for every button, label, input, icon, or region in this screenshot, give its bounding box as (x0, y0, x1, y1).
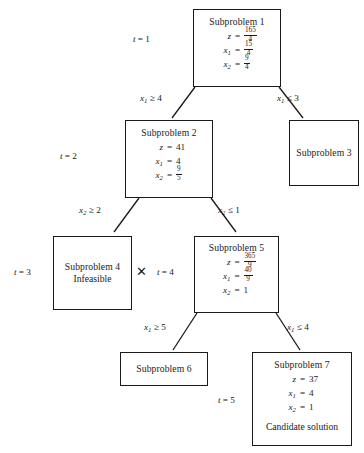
branch-label-x1-le-3: x1 ≤ 3 (277, 93, 299, 104)
equation-x1-numerator: 40 (244, 267, 253, 275)
branch-label-x2-le-1-rel: ≤ (228, 205, 233, 215)
node-subproblem-5-title: Subproblem 5 (195, 242, 278, 254)
branch-label-x1-ge-4-value: 4 (157, 93, 162, 103)
iteration-label-t-5: t = 5 (218, 395, 235, 405)
node-subproblem-6-title: Subproblem 6 (136, 363, 191, 375)
equation-x1-relation: = (163, 156, 176, 166)
equation-x1: x1 = 154 (214, 43, 260, 57)
equation-z: z = 37 (279, 372, 325, 386)
iteration-label-t-5-value: 5 (230, 395, 235, 405)
equation-x2-relation: = (231, 59, 244, 69)
branch-label-x2-le-1: x2 ≤ 1 (218, 205, 240, 216)
node-subproblem-5-equations: z = 3659 x1 = 409 x2 = 1 (214, 255, 260, 297)
branch-and-bound-diagram: Subproblem 1 z = 1654 x1 = 154 x2 = 94 t… (0, 0, 364, 453)
iteration-label-t-5-var: t (218, 395, 221, 405)
equation-z-numerator: 165 (244, 27, 257, 35)
equation-x2-numerator: 9 (176, 166, 182, 174)
equation-z-relation: = (296, 374, 309, 384)
equation-x2: x2 = 1 (214, 283, 260, 297)
edge-sub2-to-sub4 (114, 198, 139, 232)
branch-label-x1-le-4-rel: ≤ (297, 322, 302, 332)
equation-z-relation: = (231, 257, 244, 267)
iteration-label-t-2-rel: = (65, 151, 70, 161)
iteration-label-t-5-rel: = (223, 395, 228, 405)
equation-z-lhs: z (214, 257, 231, 267)
iteration-label-t-2: t = 2 (60, 151, 77, 161)
equation-x1-lhs: x1 (214, 45, 231, 56)
node-subproblem-1-equations: z = 1654 x1 = 154 x2 = 94 (214, 29, 260, 71)
equation-x2-relation: = (163, 170, 176, 180)
equation-x2: x2 = 94 (214, 57, 260, 71)
equation-x2-denominator: 5 (176, 174, 182, 183)
equation-x2: x2 = 95 (146, 168, 192, 182)
equation-z-relation: = (163, 142, 176, 152)
equation-x2-value: 1 (244, 285, 260, 295)
iteration-label-t-1-rel: = (138, 34, 143, 44)
branch-label-x2-ge-2-rel: ≥ (89, 205, 94, 215)
iteration-label-t-3-value: 3 (26, 267, 31, 277)
node-subproblem-2[interactable]: Subproblem 2 z = 41 x1 = 4 x2 = 95 (125, 120, 213, 198)
node-subproblem-1[interactable]: Subproblem 1 z = 1654 x1 = 154 x2 = 94 (193, 9, 281, 87)
equation-z-value: 37 (309, 374, 325, 384)
node-subproblem-6[interactable]: Subproblem 6 (120, 352, 208, 386)
node-subproblem-4[interactable]: Subproblem 4 Infeasible (53, 236, 132, 310)
equation-x2-value: 94 (244, 56, 260, 72)
equation-z-value: 41 (176, 142, 192, 152)
equation-x2-lhs: x2 (146, 170, 163, 181)
iteration-label-t-2-var: t (60, 151, 63, 161)
equation-x1-lhs: x1 (279, 388, 296, 399)
equation-x2-relation: = (231, 285, 244, 295)
edge-sub1-to-sub2 (172, 87, 195, 118)
iteration-label-t-1: t = 1 (133, 34, 150, 44)
branch-label-x1-ge-5-value: 5 (161, 322, 166, 332)
branch-label-x2-ge-2: x2 ≥ 2 (79, 205, 101, 216)
iteration-label-t-4: t = 4 (157, 267, 174, 277)
equation-x2-value: 1 (309, 402, 325, 412)
equation-x1-value: 409 (244, 268, 260, 284)
node-subproblem-4-title: Subproblem 4 (65, 261, 120, 273)
node-subproblem-3-title: Subproblem 3 (296, 147, 351, 159)
branch-label-x1-ge-4: x1 ≥ 4 (140, 93, 162, 104)
iteration-label-t-1-var: t (133, 34, 136, 44)
equation-x1: x1 = 4 (279, 386, 325, 400)
iteration-label-t-3: t = 3 (14, 267, 31, 277)
equation-x2: x2 = 1 (279, 400, 325, 414)
node-subproblem-4-status: Infeasible (74, 273, 112, 285)
branch-label-x1-le-3-value: 3 (294, 93, 299, 103)
equation-x2-denominator: 4 (244, 63, 250, 72)
iteration-label-t-4-value: 4 (169, 267, 174, 277)
node-subproblem-1-title: Subproblem 1 (194, 16, 280, 28)
node-subproblem-5[interactable]: Subproblem 5 z = 3659 x1 = 409 x2 = 1 (194, 236, 279, 313)
iteration-label-t-4-var: t (157, 267, 160, 277)
equation-x2-lhs: x2 (214, 285, 231, 296)
edge-sub5-to-sub6 (173, 313, 197, 350)
equation-x1-lhs: x1 (146, 156, 163, 167)
equation-x1: x1 = 409 (214, 269, 260, 283)
equation-x2-lhs: x2 (279, 402, 296, 413)
equation-z-lhs: z (214, 31, 231, 41)
equation-x2-value: 95 (176, 167, 192, 183)
equation-x1-denominator: 9 (244, 275, 253, 284)
equation-z-numerator: 365 (244, 253, 257, 261)
equation-x2-numerator: 9 (244, 55, 250, 63)
equation-x1-relation: = (231, 45, 244, 55)
equation-x2-lhs: x2 (214, 59, 231, 70)
equation-x2-relation: = (296, 402, 309, 412)
branch-label-x1-ge-5: x1 ≥ 5 (144, 322, 166, 333)
equation-x1-numerator: 15 (244, 41, 253, 49)
node-subproblem-7[interactable]: Subproblem 7 z = 37 x1 = 4 x2 = 1 Candid… (252, 352, 352, 446)
node-subproblem-3[interactable]: Subproblem 3 (289, 120, 359, 186)
node-subproblem-7-equations: z = 37 x1 = 4 x2 = 1 (279, 372, 325, 414)
iteration-label-t-4-rel: = (162, 267, 167, 277)
iteration-label-t-3-var: t (14, 267, 17, 277)
branch-label-x1-le-3-rel: ≤ (287, 93, 292, 103)
equation-z-lhs: z (146, 142, 163, 152)
equation-z-relation: = (231, 31, 244, 41)
node-subproblem-7-status: Candidate solution (253, 421, 351, 433)
branch-label-x2-le-1-value: 1 (235, 205, 240, 215)
equation-x1-relation: = (296, 388, 309, 398)
node-subproblem-2-title: Subproblem 2 (126, 127, 212, 139)
iteration-label-t-2-value: 2 (72, 151, 77, 161)
node-subproblem-2-equations: z = 41 x1 = 4 x2 = 95 (146, 140, 192, 182)
node-subproblem-7-title: Subproblem 7 (253, 359, 351, 371)
